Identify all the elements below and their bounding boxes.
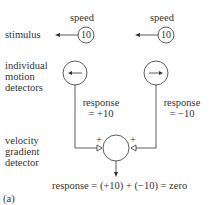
speed-label-right: speed <box>142 12 182 23</box>
stimulus-label: stimulus <box>5 29 41 40</box>
gradient-label-3: detector <box>5 157 39 168</box>
stimulus-left-value: 10 <box>78 29 94 40</box>
response-left-1: response <box>76 97 126 108</box>
gradient-label-2: gradient <box>5 146 39 157</box>
response-left-2: = +10 <box>76 108 126 119</box>
speed-label-left: speed <box>62 12 102 23</box>
arrow-right-icon <box>159 71 163 75</box>
synapse-right-icon <box>131 145 136 151</box>
output-response: response = (+10) + (−10) = zero <box>52 180 187 191</box>
arrow-left-icon <box>135 33 140 37</box>
synapse-left-icon <box>97 145 102 151</box>
gradient-detector-circle <box>103 135 129 161</box>
detectors-label-1: individual <box>5 60 48 71</box>
detectors-label-2: motion <box>5 71 35 82</box>
arrow-left-icon <box>68 71 72 75</box>
gradient-label-1: velocity <box>5 135 39 146</box>
response-right-2: = −10 <box>157 108 207 119</box>
panel-label: (a) <box>3 193 15 204</box>
synapse-right-sign: + <box>130 134 136 145</box>
synapse-left-sign: + <box>96 134 102 145</box>
arrow-down-icon <box>114 172 118 177</box>
stimulus-right-value: 10 <box>158 29 174 40</box>
detectors-label-3: detectors <box>5 82 43 93</box>
arrow-left-icon <box>55 33 60 37</box>
response-right-1: response <box>157 97 207 108</box>
